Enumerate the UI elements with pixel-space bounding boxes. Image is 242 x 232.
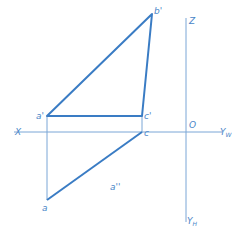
label-z-axis: Z [188,16,196,26]
front-view-triangle [47,14,152,116]
label-a-double-prime: a'' [110,182,120,192]
label-a: a [42,203,48,213]
label-origin: O [189,120,196,130]
label-x-axis: X [14,127,22,137]
label-c: c [144,128,149,138]
top-view-line [47,132,142,200]
label-yw-axis: YW [220,127,233,138]
label-yh-axis: YH [187,216,198,227]
projection-diagram: b' a' c' c a a'' X Z O YW YH [0,0,242,232]
label-b-prime: b' [154,6,162,16]
label-a-prime: a' [36,111,44,121]
label-c-prime: c' [144,111,151,121]
